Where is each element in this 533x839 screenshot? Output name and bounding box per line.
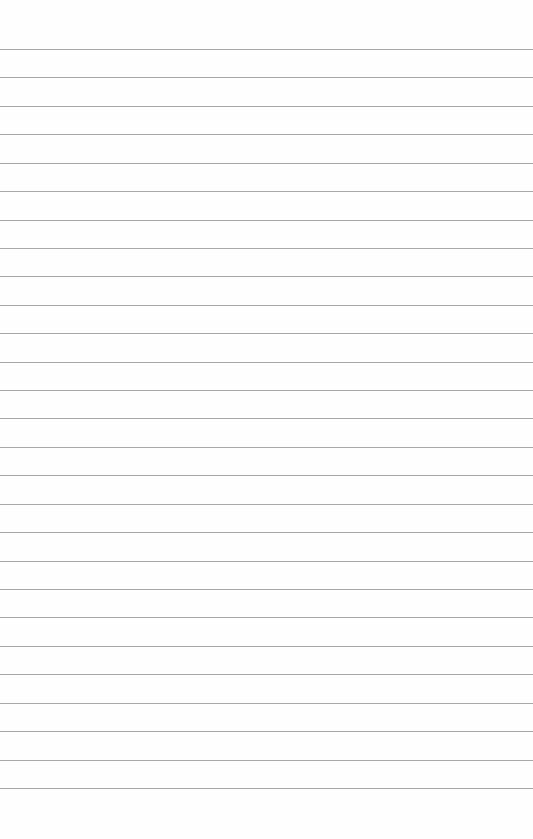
ruled-line bbox=[0, 77, 533, 78]
ruled-line bbox=[0, 617, 533, 618]
lined-paper-sheet bbox=[0, 0, 533, 839]
ruled-line bbox=[0, 504, 533, 505]
ruled-line bbox=[0, 333, 533, 334]
ruled-line bbox=[0, 532, 533, 533]
ruled-line bbox=[0, 106, 533, 107]
ruled-line bbox=[0, 731, 533, 732]
ruled-line bbox=[0, 703, 533, 704]
ruled-line bbox=[0, 760, 533, 761]
ruled-line bbox=[0, 447, 533, 448]
ruled-line bbox=[0, 305, 533, 306]
ruled-line bbox=[0, 276, 533, 277]
ruled-line bbox=[0, 220, 533, 221]
ruled-line bbox=[0, 646, 533, 647]
ruled-line bbox=[0, 390, 533, 391]
ruled-line bbox=[0, 362, 533, 363]
ruled-line bbox=[0, 49, 533, 50]
ruled-line bbox=[0, 248, 533, 249]
ruled-line bbox=[0, 561, 533, 562]
ruled-line bbox=[0, 134, 533, 135]
ruled-line bbox=[0, 674, 533, 675]
ruled-line bbox=[0, 589, 533, 590]
ruled-line bbox=[0, 191, 533, 192]
ruled-line bbox=[0, 163, 533, 164]
ruled-line bbox=[0, 788, 533, 789]
ruled-line bbox=[0, 475, 533, 476]
ruled-line bbox=[0, 418, 533, 419]
